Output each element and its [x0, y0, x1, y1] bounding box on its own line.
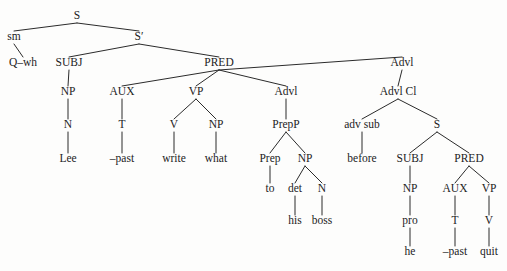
tree-node-S2: S: [434, 118, 440, 130]
tree-node-past2: –past: [442, 245, 468, 258]
tree-node-Advl1: Advl: [391, 56, 414, 68]
tree-node-SUBJ1: SUBJ: [56, 56, 83, 68]
tree-node-NP1: NP: [61, 85, 76, 97]
tree-node-Qwh: Q–wh: [9, 56, 37, 68]
tree-node-Sbar: S′: [135, 30, 144, 42]
tree-node-T2: T: [451, 214, 458, 226]
tree-edge-SUBJ1-to-NP1: [68, 70, 69, 86]
tree-node-V2: V: [485, 214, 494, 226]
tree-node-sm: sm: [7, 30, 20, 42]
tree-node-VP1: VP: [189, 85, 204, 97]
tree-node-VP2: VP: [482, 182, 497, 194]
tree-edge-PRED2-to-AUX2: [455, 166, 469, 183]
tree-node-Lee: Lee: [59, 152, 76, 164]
tree-node-quit: quit: [480, 245, 499, 258]
tree-node-boss: boss: [312, 214, 333, 226]
tree-node-write: write: [162, 152, 186, 164]
tree-node-layer: SsmS′Q–whSUBJPREDAdvlNPAUXVPAdvlAdvl ClN…: [7, 9, 498, 258]
tree-node-T1: T: [118, 118, 125, 130]
tree-node-what: what: [205, 152, 228, 164]
tree-edge-PRED2-to-VP2: [469, 166, 489, 183]
tree-node-Prep: Prep: [259, 152, 280, 165]
tree-node-PRED2: PRED: [454, 152, 483, 164]
tree-edge-S2-to-PRED2: [437, 132, 469, 153]
tree-edge-Advl1-to-AdvlCl: [398, 70, 402, 86]
tree-node-advsub: adv sub: [344, 118, 380, 130]
tree-node-N2: N: [318, 182, 327, 194]
tree-edge-S2-to-SUBJ2: [410, 132, 437, 153]
tree-node-NP4: NP: [403, 182, 418, 194]
tree-edge-S-to-Sbar: [77, 23, 139, 31]
tree-edge-VP1-to-NP2: [196, 99, 216, 119]
tree-node-N1: N: [64, 118, 73, 130]
tree-node-PRED1: PRED: [204, 56, 233, 68]
tree-node-det: det: [288, 182, 303, 194]
syntax-tree-figure: SsmS′Q–whSUBJPREDAdvlNPAUXVPAdvlAdvl ClN…: [0, 0, 507, 271]
tree-node-his: his: [288, 214, 302, 226]
tree-edge-VP1-to-V1: [174, 99, 196, 119]
tree-edge-PrepP-to-NP3: [286, 132, 305, 153]
tree-node-SUBJ2: SUBJ: [397, 152, 424, 164]
tree-edge-layer: [14, 23, 489, 246]
tree-node-pro: pro: [402, 214, 418, 227]
tree-edge-PrepP-to-Prep: [270, 132, 286, 153]
tree-edge-AdvlCl-to-S2: [398, 99, 437, 119]
tree-node-AdvlCl: Advl Cl: [380, 85, 417, 97]
tree-edge-AdvlCl-to-advsub: [362, 99, 398, 119]
tree-node-AUX1: AUX: [110, 85, 136, 97]
tree-node-he: he: [405, 245, 416, 257]
tree-edge-PRED1-to-Advl1: [219, 57, 402, 70]
tree-edge-NP3-to-N2: [305, 166, 322, 183]
tree-node-NP2: NP: [209, 118, 224, 130]
tree-node-before: before: [347, 152, 376, 164]
tree-node-NP3: NP: [298, 152, 313, 164]
tree-edge-S-to-sm: [14, 23, 77, 31]
tree-node-V1: V: [170, 118, 179, 130]
tree-edge-PRED1-to-Advl2: [219, 70, 286, 86]
tree-node-to: to: [266, 182, 275, 194]
tree-node-past1: –past: [109, 152, 135, 165]
syntax-tree-canvas: SsmS′Q–whSUBJPREDAdvlNPAUXVPAdvlAdvl ClN…: [0, 0, 507, 271]
tree-edge-PRED1-to-AUX1: [122, 70, 219, 86]
tree-node-S: S: [74, 9, 80, 21]
tree-node-PrepP: PrepP: [272, 118, 299, 131]
tree-edge-NP3-to-det: [295, 166, 305, 183]
tree-node-AUX2: AUX: [443, 182, 469, 194]
tree-node-Advl2: Advl: [275, 85, 298, 97]
